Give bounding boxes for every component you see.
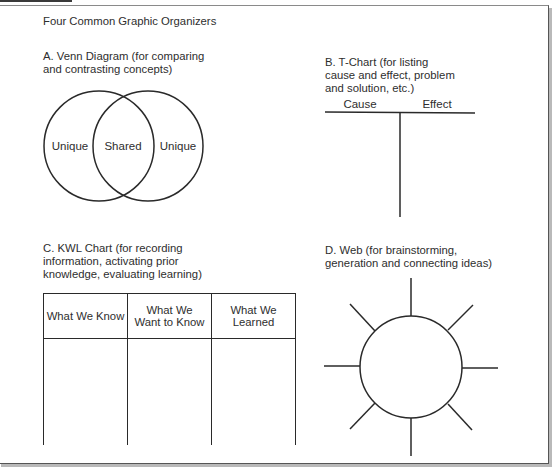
kwl-col-want: What We Want to Know (128, 294, 212, 339)
tchart (325, 112, 475, 217)
kwl-table: What We Know What We Want to Know What W… (43, 293, 296, 445)
web-spoke (448, 404, 472, 430)
kwl-cell-know (44, 339, 128, 446)
venn-label-left: Unique (52, 140, 88, 152)
web-center-circle (360, 316, 462, 418)
kwl-cell-want (128, 339, 212, 446)
venn-label-right: Unique (160, 140, 196, 152)
kwl-cell-learned (212, 339, 296, 446)
venn-label-middle: Shared (104, 140, 141, 152)
kwl-col-learned: What We Learned (212, 294, 296, 339)
web-diagram (324, 278, 498, 456)
web-spoke (350, 403, 375, 429)
web-spoke (350, 304, 375, 331)
kwl-col-know: What We Know (44, 294, 128, 339)
web-spoke (448, 305, 473, 330)
tchart-col-effect: Effect (422, 98, 452, 110)
tchart-col-cause: Cause (343, 98, 376, 110)
